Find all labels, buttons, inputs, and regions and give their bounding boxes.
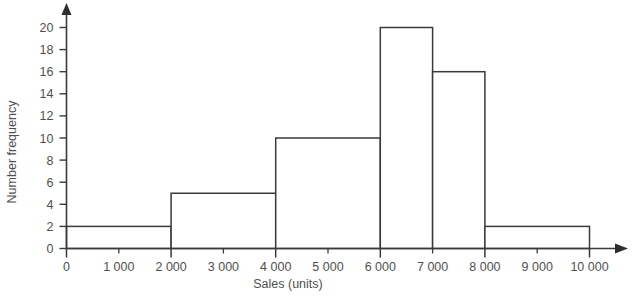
y-axis-arrow-icon <box>62 3 72 15</box>
x-tick-label: 7 000 <box>417 260 448 274</box>
y-axis-ticks <box>60 28 67 249</box>
x-axis-tick-labels: 01 0002 0003 0004 0005 0006 0007 0008 00… <box>63 260 609 274</box>
x-tick-label: 1 000 <box>103 260 134 274</box>
y-axis-tick-labels: 02468101214161820 <box>40 21 54 256</box>
histogram-bar <box>433 72 485 249</box>
y-tick-label: 10 <box>40 132 54 146</box>
x-tick-label: 0 <box>63 260 70 274</box>
histogram-chart: 01 0002 0003 0004 0005 0006 0007 0008 00… <box>0 0 636 298</box>
x-axis-title: Sales (units) <box>253 277 322 291</box>
x-axis-arrow-icon <box>615 244 628 254</box>
x-tick-label: 2 000 <box>155 260 186 274</box>
y-tick-label: 16 <box>40 65 54 79</box>
histogram-bar <box>276 138 381 249</box>
x-axis-ticks <box>67 249 590 258</box>
y-tick-label: 14 <box>40 87 54 101</box>
y-tick-label: 12 <box>40 109 54 123</box>
x-tick-label: 6 000 <box>365 260 396 274</box>
y-tick-label: 18 <box>40 43 54 57</box>
x-tick-label: 9 000 <box>522 260 553 274</box>
histogram-bar <box>380 28 432 249</box>
x-tick-label: 5 000 <box>312 260 343 274</box>
chart-canvas: 01 0002 0003 0004 0005 0006 0007 0008 00… <box>0 0 636 298</box>
x-tick-label: 3 000 <box>208 260 239 274</box>
histogram-bar <box>171 193 276 248</box>
x-tick-label: 8 000 <box>469 260 500 274</box>
y-tick-label: 0 <box>47 242 54 256</box>
histogram-bar <box>485 226 590 248</box>
y-tick-label: 6 <box>47 176 54 190</box>
y-tick-label: 4 <box>47 198 54 212</box>
histogram-bars <box>67 28 590 249</box>
y-tick-label: 8 <box>47 154 54 168</box>
histogram-bar <box>67 226 172 248</box>
x-tick-label: 10 000 <box>570 260 608 274</box>
y-axis-title: Number frequency <box>5 100 19 204</box>
y-tick-label: 2 <box>47 220 54 234</box>
x-tick-label: 4 000 <box>260 260 291 274</box>
y-tick-label: 20 <box>40 21 54 35</box>
